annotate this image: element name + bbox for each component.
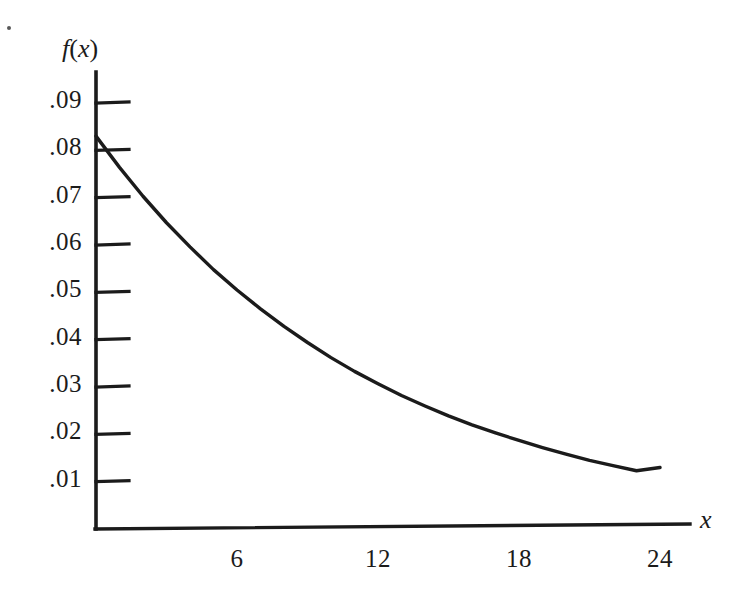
y-tick-mark: [96, 339, 129, 340]
x-tick-label: 24: [630, 545, 690, 573]
axis-lines: [95, 72, 690, 529]
y-tick-label: .02: [12, 417, 82, 445]
y-tick-label: .08: [12, 133, 82, 161]
x-axis-title: x: [700, 505, 712, 535]
y-tick-label: .03: [12, 370, 82, 398]
y-tick-mark: [96, 433, 129, 434]
y-tick-mark: [96, 386, 129, 387]
y-tick-label: .04: [12, 323, 82, 351]
y-tick-label: .07: [12, 181, 82, 209]
y-axis-title: f(x): [62, 34, 98, 64]
y-tick-label: .06: [12, 228, 82, 256]
y-tick-mark: [96, 197, 129, 198]
y-tick-mark: [96, 481, 129, 482]
y-tick-label: .09: [12, 86, 82, 114]
y-axis-title-open-paren: (: [69, 34, 78, 63]
y-tick-label: .05: [12, 275, 82, 303]
y-tick-label: .01: [12, 465, 82, 493]
x-tick-label: 18: [489, 545, 549, 573]
figure-canvas: f(x) x .09.08.07.06.05.04.03.02.01 61218…: [0, 0, 736, 600]
y-axis-title-var: x: [78, 34, 90, 63]
y-axis-title-close-paren: ): [89, 34, 98, 63]
density-curve: [96, 136, 660, 471]
x-axis-line: [95, 524, 690, 529]
y-tick-mark: [96, 244, 129, 245]
y-tick-mark: [96, 102, 129, 103]
plot-area: [0, 0, 736, 600]
y-tick-mark: [96, 291, 129, 292]
x-tick-label: 6: [207, 545, 267, 573]
x-tick-label: 12: [348, 545, 408, 573]
y-tick-mark: [96, 149, 129, 150]
